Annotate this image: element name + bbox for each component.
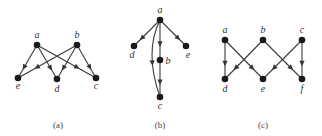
caption-c: (c) [258,120,268,130]
arrowhead-icon [157,41,162,47]
node-label-f: f [301,83,305,94]
node-label-a: a [223,24,228,35]
node-label-a: a [35,29,40,40]
arrowhead-icon [150,60,155,66]
edge-a-to-d [134,20,160,46]
node-b [260,37,267,44]
node-label-e: e [261,83,266,94]
node-e [260,76,267,83]
node-b [157,57,164,64]
caption-b: (b) [155,120,166,130]
node-label-a: a [158,4,163,15]
node-label-e: e [16,80,21,91]
node-label-c: c [158,100,163,111]
edge-b-to-e [18,45,77,78]
directed-graphs-figure: abedc(a) adebc(b) abcdef(c) [0,0,322,136]
node-c [299,37,306,44]
node-label-c: c [300,24,305,35]
node-d [54,76,61,83]
graph-a: abedc(a) [15,29,100,130]
node-label-d: d [55,83,61,94]
node-b [74,42,81,49]
node-label-d: d [223,83,229,94]
arrowhead-icon [299,61,304,67]
arrowhead-icon [157,79,162,85]
node-label-b: b [75,29,80,40]
node-a [157,17,164,24]
node-label-b: b [166,55,171,66]
node-label-b: b [261,24,266,35]
node-a [222,37,229,44]
node-label-c: c [94,80,99,91]
edge-a-to-c [37,45,96,78]
graph-b: adebc(b) [130,4,191,130]
caption-a: (a) [53,120,63,130]
arrowhead-icon [222,61,227,67]
edge-a-to-e [160,20,186,46]
node-a [34,42,41,49]
graph-c: abcdef(c) [222,24,306,130]
node-label-e: e [186,49,191,60]
node-label-d: d [130,49,136,60]
node-f [299,76,306,83]
node-d [222,76,229,83]
